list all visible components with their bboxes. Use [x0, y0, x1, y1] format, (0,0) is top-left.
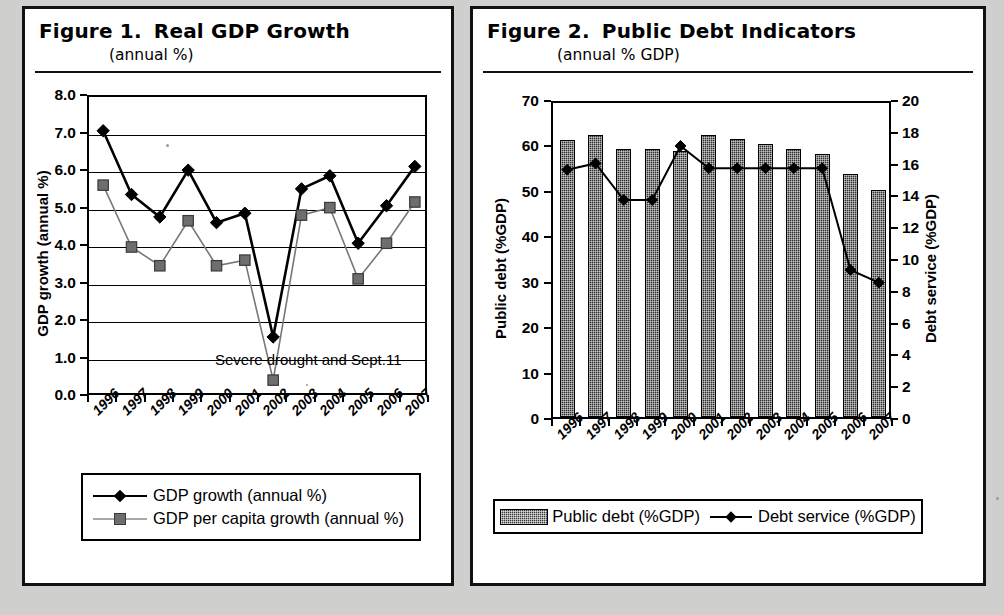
figure-2-y-axis-title-left: Public debt (%GDP) [492, 159, 509, 379]
legend-symbol-diamond [708, 509, 754, 525]
figure-2-y-tick-label-left: 60 [473, 137, 539, 155]
figure-1-plot-area [87, 95, 427, 395]
figure-1-y-tick-mark [80, 282, 87, 284]
figure-2-y-tick-label-right: 2 [902, 378, 911, 396]
figure-2-y-tick-label-left: 0 [473, 410, 539, 428]
figure-1-y-tick-mark [80, 207, 87, 209]
figure-1-y-axis-title: GDP growth (annual %) [34, 144, 51, 364]
figure-2-y-tick-mark-right [891, 323, 898, 325]
figure-2-y-tick-label-right: 8 [902, 283, 911, 301]
figure-2-plot-area [551, 101, 891, 419]
figure-2-y-tick-mark-right [891, 164, 898, 166]
scan-speck [166, 144, 169, 147]
figure-2-y-tick-mark-right [891, 354, 898, 356]
figure-2-y-tick-label-right: 14 [902, 187, 919, 205]
figure-2-y-tick-label-right: 18 [902, 124, 919, 142]
figure-1-x-tick-mark [87, 395, 89, 402]
figure-1-chart: 0.01.02.03.04.05.06.07.08.01996199719981… [25, 73, 451, 593]
figure-2-y-tick-mark-right [891, 291, 898, 293]
figure-1-y-tick-mark [80, 169, 87, 171]
figure-2-y-tick-label-right: 20 [902, 92, 919, 110]
figure-1-x-tick-mark [144, 395, 146, 402]
figure-2-y-tick-mark-right [891, 386, 898, 388]
figure-2-x-tick-mark [834, 419, 836, 426]
figure-1-x-tick-mark [172, 395, 174, 402]
figure-2-x-tick-mark [608, 419, 610, 426]
figure-1-title: Real GDP Growth [154, 19, 350, 43]
figure-2-y-tick-mark-left [544, 282, 551, 284]
figure-2-number: Figure 2. [487, 19, 590, 43]
figure-1-y-tick-mark [80, 394, 87, 396]
figure-2-y-tick-mark-left [544, 191, 551, 193]
figure-1-x-tick-mark [314, 395, 316, 402]
figure-2-y-tick-mark-right [891, 259, 898, 261]
figure-1-x-tick-mark [200, 395, 202, 402]
figure-1-subtitle: (annual %) [39, 46, 451, 64]
figure-1-legend: GDP growth (annual %)GDP per capita grow… [81, 473, 421, 541]
figure-2-heading: Figure 2.Public Debt Indicators (annual … [473, 9, 983, 64]
figure-1-x-tick-mark [285, 395, 287, 402]
figure-2-y-tick-label-right: 6 [902, 315, 911, 333]
figure-1-x-tick-mark [229, 395, 231, 402]
figure-1-legend-item: GDP growth (annual %) [91, 486, 411, 505]
figure-1-y-tick-mark [80, 319, 87, 321]
figure-1-heading: Figure 1.Real GDP Growth (annual %) [25, 9, 451, 64]
figure-2-y-tick-mark-left [544, 100, 551, 102]
scan-speck [306, 384, 308, 386]
figure-2-x-tick-mark [664, 419, 666, 426]
legend-symbol-diamond [91, 488, 149, 504]
figure-2-legend-label: Public debt (%GDP) [552, 507, 700, 526]
figure-2-y-tick-mark-left [544, 327, 551, 329]
figure-2-x-tick-mark [863, 419, 865, 426]
figure-2-x-tick-mark [636, 419, 638, 426]
figure-2-y-tick-mark-right [891, 227, 898, 229]
figure-1-legend-label: GDP growth (annual %) [153, 486, 327, 505]
figure-1-x-tick-mark [370, 395, 372, 402]
figure-2-y-tick-mark-right [891, 100, 898, 102]
figure-2-y-tick-label-left: 70 [473, 92, 539, 110]
legend-symbol-bar-swatch [500, 509, 548, 525]
figure-1-y-tick-mark [80, 244, 87, 246]
figure-1-y-tick-mark [80, 357, 87, 359]
figure-1-x-tick-mark [115, 395, 117, 402]
figure-1-x-tick-mark [342, 395, 344, 402]
figure-2-subtitle: (annual % GDP) [487, 46, 983, 64]
figure-2-y-tick-mark-left [544, 145, 551, 147]
figure-2-panel: Figure 2.Public Debt Indicators (annual … [470, 6, 986, 586]
figure-2-x-tick-mark [721, 419, 723, 426]
figure-2-y-tick-mark-left [544, 236, 551, 238]
figure-2-y-tick-label-right: 16 [902, 156, 919, 174]
figure-1-annotation: Severe drought and Sept.11 [215, 351, 402, 368]
figure-2-x-tick-mark [806, 419, 808, 426]
legend-symbol-square [91, 511, 149, 527]
figure-2-legend-row: Public debt (%GDP)Debt service (%GDP) [503, 507, 913, 526]
figure-2-legend: Public debt (%GDP)Debt service (%GDP) [493, 499, 923, 534]
figure-2-series-layer [553, 103, 893, 421]
figure-1-y-tick-mark [80, 132, 87, 134]
figure-1-x-tick-mark [399, 395, 401, 402]
figure-1-panel: Figure 1.Real GDP Growth (annual %) 0.01… [22, 6, 454, 586]
figure-2-title: Public Debt Indicators [602, 19, 856, 43]
scan-speck [996, 497, 999, 500]
figure-1-y-tick-label: 7.0 [25, 124, 76, 142]
figure-2-x-tick-mark [749, 419, 751, 426]
figure-2-y-tick-label-right: 4 [902, 346, 911, 364]
figure-2-legend-label: Debt service (%GDP) [758, 507, 916, 526]
figure-2-x-tick-mark [579, 419, 581, 426]
figure-1-number: Figure 1. [39, 19, 142, 43]
figure-2-x-tick-mark [891, 419, 893, 426]
figure-1-y-tick-mark [80, 94, 87, 96]
figure-2-x-tick-mark [778, 419, 780, 426]
figure-2-chart: 0102030405060700246810121416182019961997… [473, 73, 983, 593]
figure-2-y-tick-label-right: 12 [902, 219, 919, 237]
figure-1-legend-item: GDP per capita growth (annual %) [91, 509, 411, 528]
figure-1-x-tick-mark [427, 395, 429, 402]
figure-2-x-tick-mark [551, 419, 553, 426]
figure-2-y-axis-title-right: Debt service (%GDP) [922, 159, 939, 379]
figure-1-x-tick-mark [257, 395, 259, 402]
figure-1-y-tick-label: 8.0 [25, 86, 76, 104]
figure-1-legend-label: GDP per capita growth (annual %) [153, 509, 404, 528]
figure-2-y-tick-label-right: 0 [902, 410, 911, 428]
figure-2-y-tick-mark-right [891, 132, 898, 134]
figure-2-x-tick-mark [693, 419, 695, 426]
